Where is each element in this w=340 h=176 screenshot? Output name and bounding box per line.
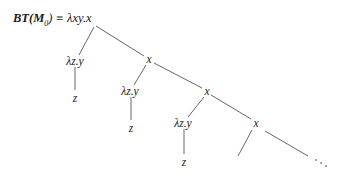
root-rest: ) ≡ λxy.x bbox=[48, 11, 91, 25]
node-lam3: λz.y bbox=[174, 117, 191, 129]
edge-x2-x3 bbox=[211, 95, 251, 119]
edge-root-x1 bbox=[96, 26, 144, 56]
node-x3: x bbox=[253, 117, 258, 129]
bohm-tree-diagram: BT(M0) ≡ λxy.x λz.y z x λz.y z x λz.y z … bbox=[0, 0, 340, 176]
node-lam2: λz.y bbox=[121, 85, 138, 97]
ellipsis-dot bbox=[320, 162, 322, 164]
edge-x1-x2 bbox=[154, 63, 202, 88]
ellipsis-dot bbox=[315, 159, 317, 161]
node-x1: x bbox=[146, 53, 151, 65]
root-label: BT(M0) ≡ λxy.x bbox=[13, 12, 92, 30]
node-x2: x bbox=[204, 85, 209, 97]
root-bt: BT( bbox=[13, 11, 33, 25]
edge-x3-left bbox=[238, 130, 252, 156]
edge-x2-lam3 bbox=[188, 97, 204, 117]
edge-x1-lam2 bbox=[134, 65, 146, 85]
root-m: M bbox=[33, 11, 44, 25]
node-lam1: λz.y bbox=[66, 55, 83, 67]
edge-x3-right bbox=[265, 131, 308, 156]
ellipsis-dot bbox=[325, 165, 327, 167]
node-z3: z bbox=[182, 156, 186, 168]
edge-root-lam1 bbox=[79, 27, 94, 55]
node-z2: z bbox=[129, 122, 133, 134]
node-z1: z bbox=[73, 92, 77, 104]
